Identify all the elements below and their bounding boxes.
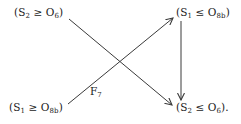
node-top-left: (S2 ≥ O6) bbox=[14, 6, 63, 18]
node-bottom-right-open: (S bbox=[176, 101, 188, 113]
node-top-right-sub2: 8b bbox=[217, 12, 226, 20]
node-top-left-op: ≥ O bbox=[30, 6, 54, 18]
node-bottom-right: (S2 ≤ O6). bbox=[176, 101, 229, 113]
node-top-right-op: ≤ O bbox=[192, 6, 216, 18]
node-bottom-left: (S1 ≥ O8b) bbox=[9, 101, 63, 113]
node-bottom-left-open: (S bbox=[9, 101, 21, 113]
node-top-right: (S1 ≤ O8b) bbox=[176, 6, 230, 18]
edge-label-sub: 7 bbox=[97, 91, 101, 99]
node-top-right-open: (S bbox=[176, 6, 188, 18]
node-bottom-left-sub2: 8b bbox=[50, 107, 59, 115]
edge-label-f7: F7 bbox=[90, 85, 102, 97]
implication-diagram: (S2 ≥ O6) (S1 ≤ O8b) (S1 ≥ O8b) (S2 ≤ O6… bbox=[0, 0, 241, 124]
node-top-left-open: (S bbox=[14, 6, 26, 18]
node-bottom-left-close: ) bbox=[59, 101, 63, 113]
node-bottom-left-op: ≥ O bbox=[25, 101, 49, 113]
node-top-left-close: ) bbox=[59, 6, 63, 18]
node-bottom-right-close: ). bbox=[221, 101, 229, 113]
node-top-right-close: ) bbox=[226, 6, 230, 18]
node-bottom-right-op: ≤ O bbox=[192, 101, 216, 113]
